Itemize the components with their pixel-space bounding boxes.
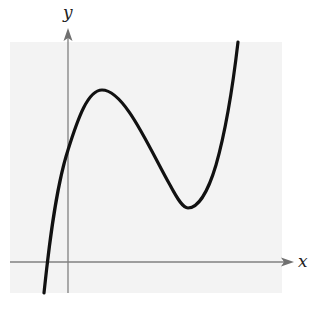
plot-background — [10, 42, 282, 293]
function-graph: x y — [0, 0, 313, 313]
x-axis-label: x — [298, 251, 308, 271]
y-axis-label: y — [62, 2, 73, 22]
